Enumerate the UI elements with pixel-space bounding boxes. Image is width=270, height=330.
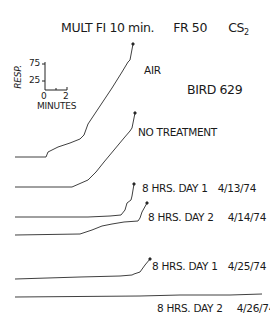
record-curve (15, 203, 147, 235)
date-row3: 4/13/74 (218, 182, 256, 194)
label-air: AIR (144, 64, 161, 76)
xtick-0: 0 (41, 91, 47, 101)
curve-end-marker (134, 112, 136, 114)
curve-end-marker (149, 258, 151, 260)
curve-end-marker (133, 183, 135, 185)
record-curve (15, 259, 150, 279)
curve-end-marker (146, 202, 148, 204)
scale-bar (42, 62, 67, 90)
x-axis-label: MINUTES (37, 101, 76, 111)
label-no-treatment: NO TREATMENT (138, 126, 217, 138)
label-row6: 8 HRS. DAY 24/26/74 (157, 302, 270, 314)
record-curve (15, 113, 135, 187)
curve-end-marker (132, 43, 134, 45)
ytick-75: 75 (29, 58, 40, 68)
date-row6: 4/26/74 (237, 302, 270, 314)
label-row4: 8 HRS. DAY 24/14/74 (148, 211, 266, 223)
date-row5: 4/25/74 (228, 260, 266, 272)
y-axis-label: RESP. (13, 65, 23, 89)
label-row5: 8 HRS. DAY 14/25/74 (152, 260, 266, 272)
date-row4: 4/14/74 (228, 211, 266, 223)
record-curve (15, 184, 134, 217)
label-row3: 8 HRS. DAY 14/13/74 (142, 182, 256, 194)
xtick-2: 2 (63, 91, 69, 101)
ytick-25: 25 (29, 75, 40, 85)
record-curves (15, 43, 262, 297)
cumulative-records-plot (0, 0, 270, 330)
record-curve (15, 294, 262, 297)
